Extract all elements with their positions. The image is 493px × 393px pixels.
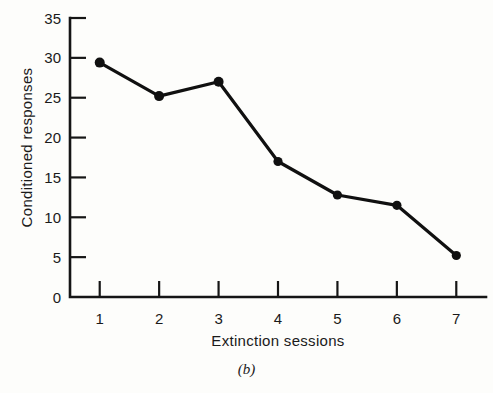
x-axis-ticks [100, 281, 457, 297]
data-point [95, 58, 105, 68]
x-tick-label: 6 [393, 310, 401, 327]
y-tick-label: 0 [53, 289, 61, 306]
x-tick-label: 4 [274, 310, 282, 327]
data-point [452, 251, 461, 260]
data-point [273, 157, 282, 166]
figure-panel-b: 35302520151050 1234567 Conditioned respo… [0, 0, 493, 393]
x-axis-tick-labels: 1234567 [96, 310, 461, 327]
figure-caption: (b) [0, 361, 493, 378]
y-tick-label: 20 [44, 129, 61, 146]
x-axis-title: Extinction sessions [70, 332, 486, 349]
data-point [154, 91, 164, 101]
y-tick-label: 35 [44, 10, 61, 27]
x-tick-label: 2 [155, 310, 163, 327]
y-tick-label: 10 [44, 209, 61, 226]
y-axis-tick-labels: 35302520151050 [44, 10, 61, 306]
x-tick-label: 7 [452, 310, 460, 327]
data-point-markers [95, 58, 461, 261]
y-axis-title: Conditioned responses [18, 18, 35, 278]
data-point [214, 77, 224, 87]
data-point [333, 190, 342, 199]
y-tick-label: 25 [44, 89, 61, 106]
x-tick-label: 3 [214, 310, 222, 327]
data-point [392, 201, 401, 210]
y-tick-label: 30 [44, 49, 61, 66]
y-axis-ticks [70, 18, 86, 257]
y-tick-label: 15 [44, 169, 61, 186]
x-tick-label: 1 [96, 310, 104, 327]
y-tick-label: 5 [53, 249, 61, 266]
x-tick-label: 5 [333, 310, 341, 327]
